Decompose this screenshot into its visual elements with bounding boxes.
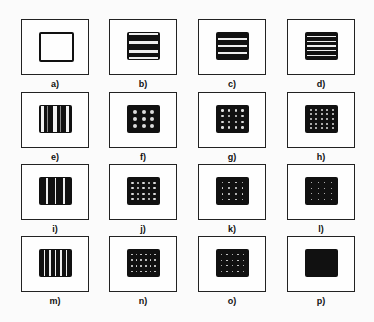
- panel-d: d): [287, 19, 355, 75]
- panel-c: c): [198, 19, 266, 75]
- mode-pattern: [216, 32, 249, 60]
- mode-pattern: [127, 249, 160, 277]
- mode-pattern: [39, 249, 72, 277]
- panel-label: p): [287, 296, 355, 306]
- panel-k: k): [198, 164, 266, 220]
- panel-label: a): [21, 79, 89, 89]
- mode-pattern: [305, 32, 338, 60]
- panel-label: e): [21, 152, 89, 162]
- panel-label: o): [198, 296, 266, 306]
- panel-p: p): [287, 236, 355, 292]
- panel-f: f): [109, 92, 177, 148]
- panel-e: e): [21, 92, 89, 148]
- mode-pattern: [39, 32, 74, 62]
- panel-label: m): [21, 296, 89, 306]
- panel-b: b): [109, 19, 177, 75]
- panel-label: b): [109, 79, 177, 89]
- mode-pattern: [39, 105, 72, 133]
- mode-pattern: [216, 105, 249, 133]
- mode-pattern: [127, 32, 160, 60]
- mode-pattern: [39, 177, 72, 205]
- panel-label: j): [109, 224, 177, 234]
- mode-pattern: [216, 249, 249, 277]
- panel-label: l): [287, 224, 355, 234]
- panel-l: l): [287, 164, 355, 220]
- panel-label: f): [109, 152, 177, 162]
- panel-j: j): [109, 164, 177, 220]
- panel-label: h): [287, 152, 355, 162]
- mode-pattern: [305, 177, 338, 205]
- panel-h: h): [287, 92, 355, 148]
- mode-pattern: [305, 105, 338, 133]
- panel-n: n): [109, 236, 177, 292]
- panel-m: m): [21, 236, 89, 292]
- panel-label: n): [109, 296, 177, 306]
- panel-label: i): [21, 224, 89, 234]
- mode-pattern: [127, 105, 160, 133]
- panel-label: c): [198, 79, 266, 89]
- panel-o: o): [198, 236, 266, 292]
- panel-label: d): [287, 79, 355, 89]
- panel-g: g): [198, 92, 266, 148]
- panel-label: k): [198, 224, 266, 234]
- panel-i: i): [21, 164, 89, 220]
- panel-a: a): [21, 19, 89, 75]
- mode-pattern: [127, 177, 160, 205]
- panel-label: g): [198, 152, 266, 162]
- mode-pattern: [216, 177, 249, 205]
- mode-pattern: [305, 249, 338, 277]
